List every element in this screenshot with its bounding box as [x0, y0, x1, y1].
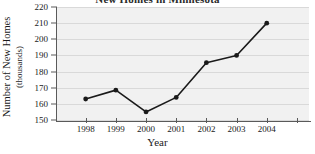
- y-axis-line: [56, 7, 57, 122]
- data-point-2004: [264, 21, 269, 26]
- data-point-2002: [204, 60, 209, 65]
- x-tick-label: 2004: [258, 124, 276, 134]
- x-tick-label: 2000: [137, 124, 155, 134]
- data-point-1999: [113, 88, 118, 93]
- data-point-1998: [83, 97, 88, 102]
- x-tick-label: 1999: [107, 124, 125, 134]
- x-tick-mark: [237, 118, 238, 123]
- series-markers: [83, 21, 269, 115]
- data-point-2003: [234, 53, 239, 58]
- y-axis-tick-labels: 150160170180190200210220: [22, 0, 48, 154]
- x-tick-mark: [116, 118, 117, 123]
- y-tick-label: 150: [22, 116, 48, 125]
- x-axis-line: [56, 121, 311, 122]
- x-tick-label: 2001: [167, 124, 185, 134]
- chart-figure: New Homes in Minnesota Number of New Hom…: [0, 0, 315, 154]
- x-tick-mark: [146, 118, 147, 123]
- x-tick-mark: [86, 118, 87, 123]
- y-tick-label: 220: [22, 3, 48, 12]
- y-tick-label: 210: [22, 19, 48, 28]
- y-tick-label: 190: [22, 51, 48, 60]
- data-point-2001: [174, 95, 179, 100]
- y-tick-label: 170: [22, 83, 48, 92]
- series-line-chart: [57, 7, 309, 120]
- plot-area: [57, 7, 309, 120]
- x-tick-mark: [267, 118, 268, 123]
- x-tick-label: 2002: [197, 124, 215, 134]
- y-tick-label: 160: [22, 99, 48, 108]
- x-tick-mark: [206, 118, 207, 123]
- x-tick-label: 2003: [228, 124, 246, 134]
- x-tick-mark-trailing: [297, 118, 298, 123]
- data-point-2000: [144, 110, 149, 115]
- y-tick-label: 180: [22, 67, 48, 76]
- x-tick-mark: [176, 118, 177, 123]
- x-axis-title: Year: [0, 136, 315, 148]
- y-tick-label: 200: [22, 35, 48, 44]
- x-tick-label: 1998: [77, 124, 95, 134]
- y-axis-title-line1: Number of New Homes: [1, 17, 12, 118]
